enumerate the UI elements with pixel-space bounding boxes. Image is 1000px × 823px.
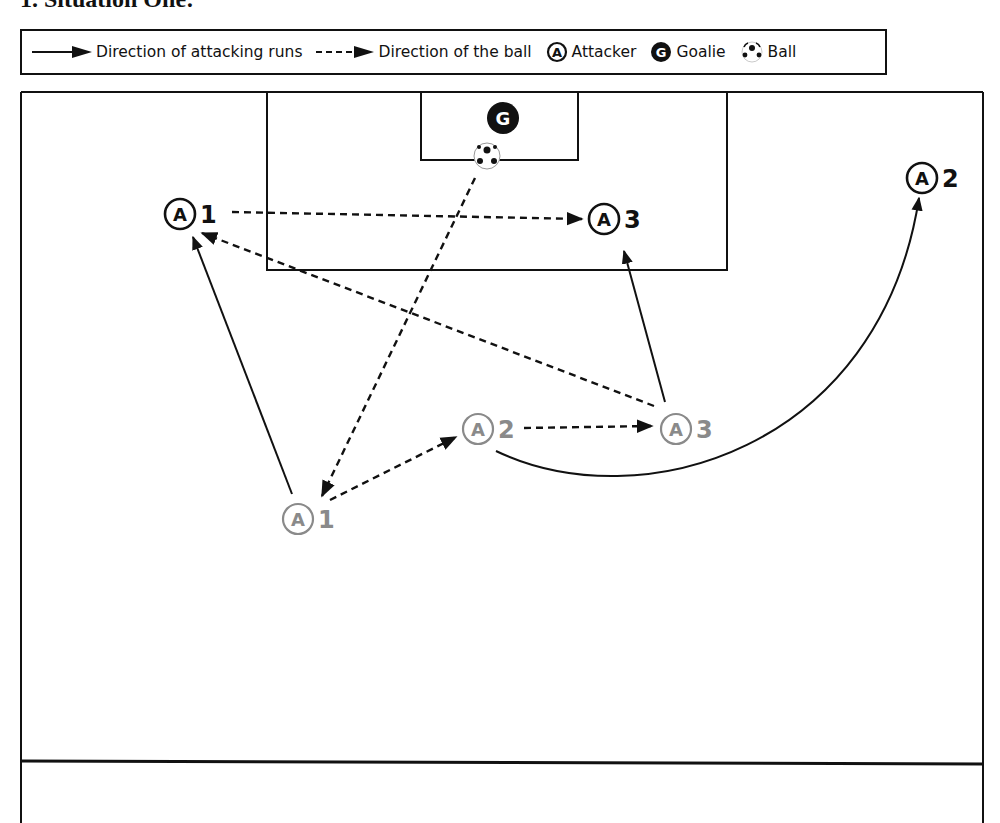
soccer-field-diagram: G A 1 A 3 A 2 A 1 A 2 A 3	[0, 0, 1000, 823]
attacker-glyph: A	[291, 509, 305, 530]
attacker-final-1: A 1	[165, 199, 217, 229]
attacking-runs	[193, 198, 919, 494]
attacker-number: 1	[318, 506, 335, 534]
ball-path-a3-to-a1	[202, 233, 654, 406]
goalie: G	[487, 102, 519, 134]
soccer-ball-icon	[474, 143, 500, 169]
attacker-glyph: A	[915, 168, 929, 189]
attacker-number: 3	[696, 416, 713, 444]
attacker-start-3: A 3	[661, 414, 713, 444]
attacker-number: 2	[942, 165, 959, 193]
attacker-number: 1	[200, 201, 217, 229]
attacker-start-1: A 1	[283, 504, 335, 534]
field-lines	[21, 92, 983, 823]
goalie-glyph: G	[496, 108, 511, 129]
attacker-final-2: A 2	[907, 163, 959, 193]
halfway-line	[21, 761, 983, 764]
attacker-glyph: A	[471, 419, 485, 440]
attacker-final-3: A 3	[589, 204, 641, 234]
ball-paths	[202, 178, 654, 500]
ball-path-a1-to-a2	[330, 437, 456, 500]
run-a1	[193, 237, 292, 494]
ball-path-a1-to-a3	[232, 212, 582, 219]
ball-path-a2-to-a3	[524, 426, 652, 428]
attacker-number: 2	[498, 416, 515, 444]
attacker-glyph: A	[597, 209, 611, 230]
run-a3	[624, 251, 665, 402]
attacker-number: 3	[624, 206, 641, 234]
attacker-start-2: A 2	[463, 414, 515, 444]
attacker-glyph: A	[669, 419, 683, 440]
attacker-glyph: A	[173, 204, 187, 225]
ball-path-ball-to-a1	[322, 178, 475, 496]
